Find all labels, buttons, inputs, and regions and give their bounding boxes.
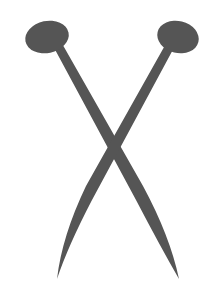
right-needle-icon xyxy=(57,16,202,279)
left-needle-icon xyxy=(22,17,179,279)
knitting-needles-illustration: Two crossed knitting needles xyxy=(0,0,212,305)
knitting-needles-icon xyxy=(0,0,212,305)
